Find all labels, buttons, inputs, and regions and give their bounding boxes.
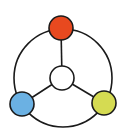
center-node — [50, 66, 74, 90]
bottom-right-node — [92, 91, 116, 115]
top-node — [49, 16, 73, 40]
network-icon — [0, 0, 126, 137]
network-diagram — [0, 0, 126, 137]
bottom-left-node — [10, 92, 34, 116]
